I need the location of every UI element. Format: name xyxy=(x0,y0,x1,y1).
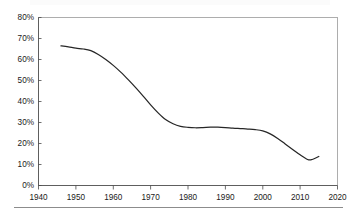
y-tick-label: 40% xyxy=(18,97,34,106)
chart-figure: 0% 10% 20% 30% 40% 50% 60% 70% 80% 1940 … xyxy=(0,0,359,221)
x-tick-label: 2010 xyxy=(291,193,310,202)
data-line-series-1 xyxy=(61,46,319,160)
x-tick-label: 1980 xyxy=(179,193,198,202)
x-tick-label: 1940 xyxy=(29,193,48,202)
y-tick-label: 50% xyxy=(18,76,34,85)
cropped-title-remnant xyxy=(30,0,330,5)
x-tick-label: 1950 xyxy=(67,193,86,202)
y-tick-label: 20% xyxy=(18,139,34,148)
x-tick-label: 2020 xyxy=(328,193,347,202)
y-axis-ticks xyxy=(39,18,42,186)
x-tick-label: 1990 xyxy=(216,193,235,202)
y-axis-tick-labels: 0% 10% 20% 30% 40% 50% 60% 70% 80% xyxy=(18,13,34,190)
y-tick-label: 80% xyxy=(18,13,34,22)
plot-area-border xyxy=(39,18,338,186)
y-tick-label: 10% xyxy=(18,160,34,169)
x-tick-label: 1960 xyxy=(104,193,123,202)
x-tick-label: 1970 xyxy=(141,193,160,202)
y-tick-label: 30% xyxy=(18,118,34,127)
x-axis-tick-labels: 1940 1950 1960 1970 1980 1990 2000 2010 … xyxy=(29,193,347,202)
line-chart: 0% 10% 20% 30% 40% 50% 60% 70% 80% 1940 … xyxy=(0,0,359,221)
y-tick-label: 70% xyxy=(18,34,34,43)
x-tick-label: 2000 xyxy=(254,193,273,202)
x-axis-ticks xyxy=(39,186,338,190)
y-tick-label: 0% xyxy=(22,181,34,190)
y-tick-label: 60% xyxy=(18,55,34,64)
